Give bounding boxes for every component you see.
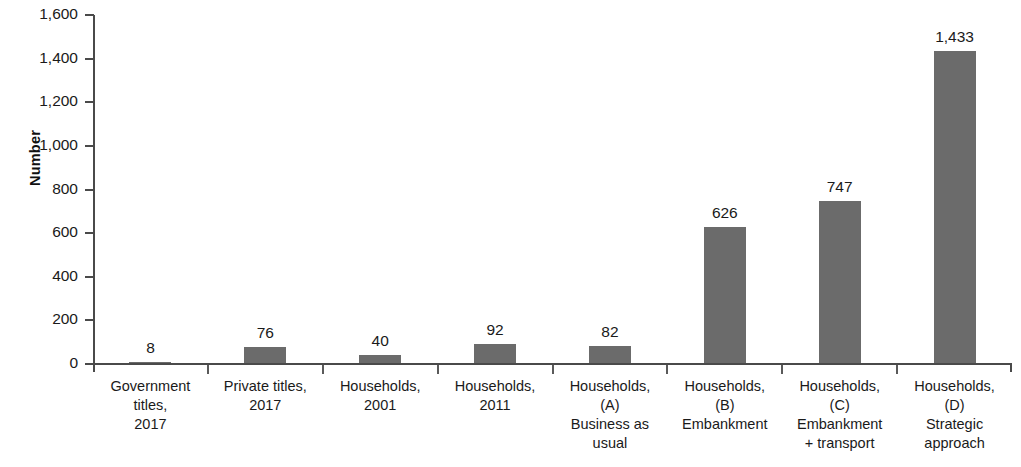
x-axis-label: Households,2001 xyxy=(323,377,438,415)
x-axis-end-tick xyxy=(1010,363,1012,372)
bar-value-label: 76 xyxy=(257,324,274,342)
bar-value-label: 92 xyxy=(486,321,503,339)
x-axis-label-line: Households, xyxy=(438,377,553,396)
bar-group: 8 xyxy=(93,15,208,364)
x-axis-label-line: (C) xyxy=(782,396,897,415)
x-axis-label-line: approach xyxy=(897,434,1012,453)
y-axis-tick-label: 1,000 xyxy=(0,136,78,154)
bar xyxy=(589,346,631,364)
x-axis-category-tick xyxy=(207,365,209,374)
y-axis-tick-label: 600 xyxy=(0,223,78,241)
x-axis-label: Private titles,2017 xyxy=(208,377,323,415)
x-axis-labels: Governmenttitles,2017Private titles,2017… xyxy=(93,377,1012,467)
x-axis-label-line: 2017 xyxy=(208,396,323,415)
x-axis-label: Households,(B)Embankment xyxy=(667,377,782,434)
y-axis-tick-label: 1,600 xyxy=(0,5,78,23)
x-axis-label-line: Business as xyxy=(553,415,668,434)
x-axis-label-line: Households, xyxy=(323,377,438,396)
bar-group: 747 xyxy=(782,15,897,364)
x-axis-label: Households,(C)Embankment+ transport xyxy=(782,377,897,453)
bar-value-label: 747 xyxy=(827,178,853,196)
bar-group: 92 xyxy=(438,15,553,364)
x-axis-label-line: Households, xyxy=(667,377,782,396)
x-axis-category-tick xyxy=(896,365,898,374)
bar xyxy=(244,347,286,364)
bar-value-label: 40 xyxy=(372,332,389,350)
y-axis-tick-label: 1,200 xyxy=(0,92,78,110)
y-axis-tick-label: 400 xyxy=(0,267,78,285)
bar-group: 1,433 xyxy=(897,15,1012,364)
x-axis-label-line: titles, xyxy=(93,396,208,415)
x-axis-label-line: 2011 xyxy=(438,396,553,415)
x-axis-label-line: Government xyxy=(93,377,208,396)
x-axis-label-line: usual xyxy=(553,434,668,453)
x-axis-label: Households,2011 xyxy=(438,377,553,415)
bar-group: 40 xyxy=(323,15,438,364)
bar xyxy=(704,227,746,364)
x-axis-label-line: + transport xyxy=(782,434,897,453)
x-axis-label-line: Households, xyxy=(897,377,1012,396)
y-axis-tick-label: 0 xyxy=(0,354,78,372)
bar-group: 76 xyxy=(208,15,323,364)
bar xyxy=(934,51,976,364)
x-axis-label-line: Households, xyxy=(553,377,668,396)
x-axis-label-line: 2017 xyxy=(93,415,208,434)
x-axis-label: Households,(A)Business asusual xyxy=(553,377,668,453)
x-axis-category-tick xyxy=(437,365,439,374)
bar-value-label: 626 xyxy=(712,204,738,222)
bar-chart: Number 02004006008001,0001,2001,4001,600… xyxy=(0,0,1021,467)
x-axis-label-line: (B) xyxy=(667,396,782,415)
x-axis-label: Households,(D)Strategicapproach xyxy=(897,377,1012,453)
plot-area: 8764092826267471,433 xyxy=(93,15,1012,364)
bar-value-label: 8 xyxy=(146,339,155,357)
x-axis-end-tick xyxy=(93,363,95,372)
x-axis-label-line: (D) xyxy=(897,396,1012,415)
bar-value-label: 82 xyxy=(601,323,618,341)
x-axis-category-tick xyxy=(322,365,324,374)
x-axis-label-line: 2001 xyxy=(323,396,438,415)
x-axis-category-tick xyxy=(552,365,554,374)
x-axis-label-line: Embankment xyxy=(782,415,897,434)
bar xyxy=(819,201,861,364)
bar xyxy=(474,344,516,364)
bar-value-label: 1,433 xyxy=(935,28,974,46)
bar-group: 626 xyxy=(667,15,782,364)
x-axis-label-line: Strategic xyxy=(897,415,1012,434)
x-axis-label-line: (A) xyxy=(553,396,668,415)
x-axis-label-line: Households, xyxy=(782,377,897,396)
x-axis-label: Governmenttitles,2017 xyxy=(93,377,208,434)
bar-group: 82 xyxy=(553,15,668,364)
y-axis-tick-label: 200 xyxy=(0,310,78,328)
y-axis-tick-label: 800 xyxy=(0,180,78,198)
x-axis-label-line: Private titles, xyxy=(208,377,323,396)
x-axis-category-tick xyxy=(666,365,668,374)
y-axis-tick-label: 1,400 xyxy=(0,49,78,67)
x-axis-label-line: Embankment xyxy=(667,415,782,434)
x-axis-category-tick xyxy=(781,365,783,374)
